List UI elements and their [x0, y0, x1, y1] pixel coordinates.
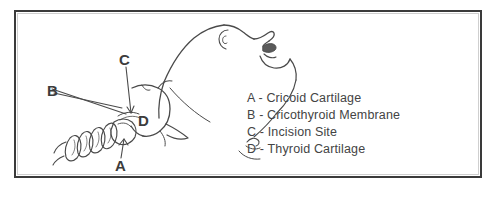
- legend-item-b: B - Cricothyroid Membrane: [247, 107, 472, 124]
- legend-item-d: D - Thyroid Cartilage: [247, 141, 472, 158]
- legend-label-d: Thyroid Cartilage: [268, 142, 366, 156]
- legend-item-c: C - Incision Site: [247, 124, 472, 141]
- callout-letter-c: C: [119, 51, 130, 68]
- legend-separator: -: [260, 125, 268, 139]
- legend-label-a: Cricoid Cartilage: [266, 91, 361, 105]
- screenshot-root: B C A D A - Cricoid Cartilage B - Cricot…: [0, 0, 499, 199]
- leader-line-b-secondary: [54, 93, 122, 108]
- legend-separator: -: [260, 142, 268, 156]
- callout-letter-b: B: [47, 82, 58, 99]
- callout-letter-d: D: [138, 112, 149, 129]
- legend-item-a: A - Cricoid Cartilage: [247, 90, 472, 107]
- legend-key-b: B: [247, 108, 256, 122]
- larynx-and-trachea: [53, 81, 188, 165]
- leader-line-b: [52, 89, 126, 114]
- callout-letter-a: A: [115, 157, 126, 174]
- leader-line-c: [126, 67, 131, 113]
- legend-separator: -: [259, 108, 267, 122]
- legend-key-c: C: [247, 125, 256, 139]
- legend-label-c: Incision Site: [268, 125, 337, 139]
- legend-key-a: A: [247, 91, 255, 105]
- legend-label-b: Cricothyroid Membrane: [267, 108, 400, 122]
- legend: A - Cricoid Cartilage B - Cricothyroid M…: [247, 90, 472, 158]
- legend-key-d: D: [247, 142, 256, 156]
